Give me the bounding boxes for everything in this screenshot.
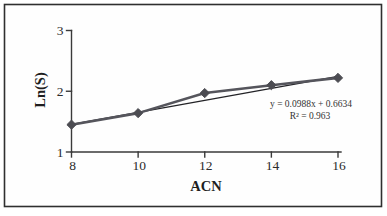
y-tick-label: 2 [57,84,64,99]
x-tick-label: 14 [266,158,280,173]
y-tick-label: 1 [57,145,64,160]
x-tick-label: 10 [132,158,146,173]
x-tick-label: 16 [332,158,346,173]
trendline-equation: y = 0.0988x + 0.6634 [270,99,352,109]
chart-figure: 123810121416 Ln(S) ACN y = 0.0988x + 0.6… [0,0,387,216]
x-axis-title: ACN [190,178,222,194]
chart-canvas: 123810121416 Ln(S) ACN y = 0.0988x + 0.6… [0,0,387,216]
x-tick-label: 12 [199,158,213,173]
y-tick-label: 3 [57,23,64,38]
y-axis-title: Ln(S) [32,72,49,108]
x-tick-label: 8 [69,158,76,173]
trendline-r-squared: R² = 0.963 [290,111,331,121]
